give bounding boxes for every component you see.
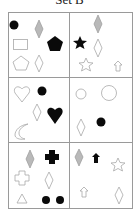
- cell-top-right: [73, 15, 122, 71]
- cell-middle-left: [14, 87, 62, 140]
- outline-cross-icon: [15, 171, 29, 185]
- black-circle-icon: [56, 196, 64, 204]
- black-circle-icon: [97, 118, 106, 127]
- gray-diamond-icon: [75, 149, 83, 166]
- outline-circle-large-icon: [102, 86, 117, 101]
- outline-heart-icon: [14, 87, 29, 102]
- black-pentagon-icon: [47, 36, 63, 51]
- outline-circle-small-icon: [76, 89, 86, 99]
- outline-star-icon: [111, 158, 125, 171]
- outline-diamond-icon: [77, 119, 85, 136]
- cell-bottom-right: [75, 149, 125, 204]
- shape-grid: [0, 0, 139, 220]
- outline-triangle-icon: [17, 194, 27, 203]
- outline-crescent-icon: [15, 124, 28, 139]
- outline-star-icon: [79, 58, 93, 71]
- outline-diamond-icon: [35, 55, 43, 72]
- cell-middle-right: [76, 86, 117, 137]
- black-circle-icon: [38, 87, 47, 96]
- cell-top-left: [10, 20, 64, 72]
- outline-arrow-up-icon: [114, 61, 122, 71]
- black-arrow-up-icon: [92, 153, 100, 163]
- cell-bottom-left: [15, 150, 64, 204]
- black-circle-icon: [10, 21, 19, 30]
- outline-diamond-icon: [115, 187, 123, 204]
- black-star-icon: [73, 36, 87, 49]
- gray-diamond-icon: [26, 150, 34, 168]
- black-cross-icon: [45, 150, 59, 164]
- outline-diamond-icon: [33, 104, 41, 121]
- outline-diamond-icon: [94, 39, 102, 57]
- outline-rectangle-icon: [14, 40, 28, 50]
- black-heart-icon: [47, 108, 62, 124]
- outline-arrow-up-icon: [80, 187, 88, 197]
- gray-diamond-icon: [35, 20, 43, 38]
- gray-diamond-icon: [94, 15, 102, 33]
- outline-diamond-icon: [45, 172, 53, 189]
- outline-pentagon-icon: [13, 56, 29, 70]
- black-circle-icon: [42, 196, 50, 204]
